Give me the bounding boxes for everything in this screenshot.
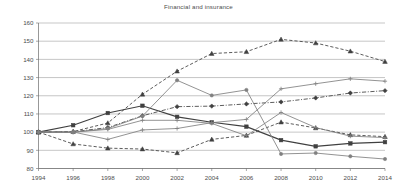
data-point-marker <box>383 79 387 83</box>
data-point-marker <box>383 157 386 160</box>
data-point-marker <box>279 37 284 41</box>
data-point-marker <box>279 120 284 124</box>
line-chart-plot: 8090100110120130140150160 19941996199820… <box>0 0 397 194</box>
data-point-marker <box>245 88 248 91</box>
y-tick-label: 160 <box>23 19 34 26</box>
x-tick-label: 1994 <box>32 174 46 181</box>
x-tick-label: 2004 <box>205 174 219 181</box>
y-tick-label: 130 <box>23 74 34 81</box>
data-point-marker <box>245 125 249 129</box>
x-tick-label: 2002 <box>170 174 184 181</box>
data-point-marker <box>314 82 318 86</box>
data-point-marker <box>140 128 144 132</box>
y-tick-label: 140 <box>23 56 34 63</box>
y-tick-label: 100 <box>23 128 34 135</box>
data-point-marker <box>141 114 144 117</box>
data-point-marker <box>175 115 179 119</box>
y-tick-label: 110 <box>24 110 34 117</box>
x-tick-label: 2012 <box>343 174 357 181</box>
data-point-marker <box>106 111 110 115</box>
x-tick-label: 2014 <box>378 174 392 181</box>
data-point-marker <box>71 123 75 127</box>
data-point-marker <box>244 102 248 106</box>
data-point-marker <box>140 118 144 122</box>
data-point-marker <box>383 88 387 92</box>
data-point-marker <box>348 91 352 95</box>
data-point-marker <box>175 104 179 108</box>
data-point-marker <box>279 138 283 142</box>
data-point-marker <box>106 137 110 141</box>
y-tick-label: 150 <box>23 37 34 44</box>
data-point-marker <box>175 126 179 130</box>
data-point-marker <box>314 151 317 154</box>
data-point-marker <box>140 92 145 96</box>
data-series <box>36 37 387 161</box>
data-point-marker <box>279 100 283 104</box>
data-point-marker <box>209 51 214 55</box>
x-axis-ticks: 1994199619982000200220042006200820102012… <box>32 169 393 181</box>
y-tick-label: 90 <box>27 147 34 154</box>
y-axis-ticks: 8090100110120130140150160 <box>23 19 38 172</box>
data-point-marker <box>383 140 387 144</box>
data-point-marker <box>210 104 214 108</box>
data-point-marker <box>383 135 387 139</box>
x-tick-label: 2010 <box>309 174 323 181</box>
data-point-marker <box>314 96 318 100</box>
data-point-marker <box>175 79 178 82</box>
data-point-marker <box>349 142 353 146</box>
y-tick-label: 80 <box>27 165 34 172</box>
data-point-marker <box>279 152 282 155</box>
x-tick-label: 2000 <box>136 174 150 181</box>
data-point-marker <box>349 155 352 158</box>
x-tick-label: 1996 <box>66 174 80 181</box>
x-tick-label: 2008 <box>274 174 288 181</box>
x-tick-label: 1998 <box>101 174 115 181</box>
data-point-marker <box>210 94 213 97</box>
data-point-marker <box>106 121 111 125</box>
data-point-marker <box>314 145 318 149</box>
y-tick-label: 120 <box>23 92 34 99</box>
data-point-marker <box>175 69 180 73</box>
data-point-marker <box>141 104 145 108</box>
chart-container: Financial and insurance 8090100110120130… <box>0 0 397 194</box>
x-tick-label: 2006 <box>240 174 254 181</box>
data-point-marker <box>348 49 353 53</box>
